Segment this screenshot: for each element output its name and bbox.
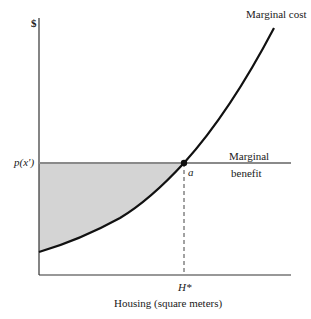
chart: $ Marginal cost p(x') Marginal benefit a…	[0, 0, 311, 319]
marginal-cost-label: Marginal cost	[246, 8, 307, 20]
marginal-benefit-label-line2: benefit	[231, 167, 262, 179]
shaded-surplus-area	[39, 163, 184, 252]
x-axis-label: Housing (square meters)	[114, 297, 222, 309]
price-label: p(x')	[14, 156, 34, 168]
intersection-point	[181, 160, 187, 166]
point-a-label: a	[188, 166, 194, 178]
y-axis-label: $	[31, 17, 37, 29]
hstar-label: H*	[178, 281, 191, 293]
marginal-benefit-label-line1: Marginal	[229, 150, 269, 162]
